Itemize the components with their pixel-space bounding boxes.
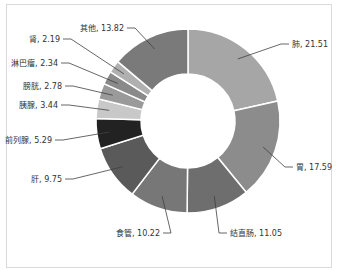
slice-label: 胃, 17.59 xyxy=(296,163,332,172)
donut-slice xyxy=(188,29,278,111)
slice-label: 膀胱, 2.78 xyxy=(23,81,62,91)
slice-label: 肾, 2.19 xyxy=(29,35,60,44)
slice-label: 肺, 21.51 xyxy=(292,40,328,49)
slice-label: 胰腺, 3.44 xyxy=(19,100,58,110)
donut-chart: 肺, 21.51胃, 17.59结直肠, 11.05食管, 10.22肝, 9.… xyxy=(0,0,340,274)
slice-label: 前列腺, 5.29 xyxy=(5,135,52,145)
slice-label: 结直肠, 11.05 xyxy=(230,228,282,238)
slice-label: 淋巴瘤, 2.34 xyxy=(11,58,58,68)
slice-label: 食管, 10.22 xyxy=(116,228,160,238)
slice-label: 其他, 13.82 xyxy=(80,23,124,33)
slice-label: 肝, 9.75 xyxy=(31,175,62,184)
